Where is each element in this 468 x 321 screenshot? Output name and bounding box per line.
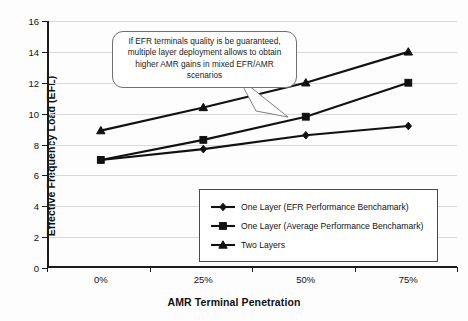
legend-marker-square xyxy=(209,220,237,232)
legend-label: One Layer (EFR Performance Benchamark) xyxy=(241,202,409,212)
data-point-marker xyxy=(405,122,411,130)
x-tick-label: 50% xyxy=(296,274,315,285)
legend-label: Two Layers xyxy=(241,240,285,250)
x-tick-label: 25% xyxy=(194,274,213,285)
y-tick-label: 6 xyxy=(34,170,39,181)
x-tick-label: 0% xyxy=(94,274,108,285)
data-point-marker xyxy=(200,145,206,153)
y-tick-label: 0 xyxy=(34,263,39,274)
legend-item: Two Layers xyxy=(209,235,429,254)
data-point-marker xyxy=(404,48,412,55)
data-point-marker xyxy=(97,157,104,164)
callout-annotation: If EFR terminals quality is be guarantee… xyxy=(112,31,297,88)
x-axis-title: AMR Terminal Penetration xyxy=(0,296,468,308)
data-point-marker xyxy=(405,79,412,86)
y-tick-label: 16 xyxy=(28,16,39,27)
data-point-marker xyxy=(302,113,309,120)
y-tick-label: 8 xyxy=(34,139,39,150)
legend-item: One Layer (EFR Performance Benchamark) xyxy=(209,197,429,216)
y-tick-label: 14 xyxy=(28,46,39,57)
legend-item: One Layer (Average Performance Benchamar… xyxy=(209,216,429,235)
y-tick-label: 12 xyxy=(28,77,39,88)
x-tick-label: 75% xyxy=(399,274,418,285)
chart-container: Effective Frequency Load (EFL) AMR Termi… xyxy=(0,0,468,321)
y-tick-label: 4 xyxy=(34,201,39,212)
data-point-marker xyxy=(303,131,309,139)
x-tick-mark xyxy=(457,267,458,272)
y-tick-label: 2 xyxy=(34,232,39,243)
series-line xyxy=(101,126,409,160)
data-point-marker xyxy=(220,203,226,211)
chart-legend: One Layer (EFR Performance Benchamark)On… xyxy=(199,189,438,262)
y-tick-label: 10 xyxy=(28,108,39,119)
data-point-marker xyxy=(220,222,227,229)
data-point-marker xyxy=(200,136,207,143)
legend-marker-diamond xyxy=(209,201,237,213)
legend-marker-triangle xyxy=(209,239,237,251)
legend-label: One Layer (Average Performance Benchamar… xyxy=(241,221,423,231)
callout-text: If EFR terminals quality is be guarantee… xyxy=(128,36,282,80)
